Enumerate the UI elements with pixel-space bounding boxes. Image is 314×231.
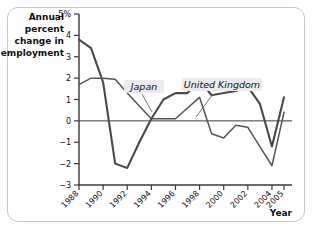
x-tick-label-5: 1998 <box>180 189 201 210</box>
y-tick-label-0: 5% <box>58 10 71 19</box>
y-axis-title-line-4: employment <box>1 48 65 58</box>
y-axis-title: Annual percent change in employment <box>1 12 65 58</box>
x-tick-label-2: 1992 <box>108 189 129 210</box>
y-tick-label-5: 0 <box>66 117 71 126</box>
x-axis-title: Year <box>269 208 293 218</box>
x-tick-label-7: 2002 <box>228 189 249 210</box>
x-tick-label-4: 1996 <box>156 189 177 210</box>
y-tick-label-6: −1 <box>59 138 71 147</box>
y-tick-label-2: 3 <box>66 53 71 62</box>
x-tick-label-0: 1988 <box>60 189 81 210</box>
y-tick-label-7: −2 <box>59 160 71 169</box>
y-tick-label-8: −3 <box>59 181 71 190</box>
y-tick-label-3: 2 <box>66 74 71 83</box>
employment-change-line-chart: Annual percent change in employment 5%43… <box>0 0 314 231</box>
chart-container: Annual percent change in employment 5%43… <box>0 0 314 231</box>
x-tick-label-1: 1990 <box>84 189 105 210</box>
x-axis-ticks: 1988199019921994199619982000200220042005 <box>60 185 286 210</box>
x-tick-label-6: 2000 <box>204 189 225 210</box>
series-label-united-kingdom: United Kingdom <box>184 79 260 90</box>
y-axis-title-line-2: percent <box>25 24 65 34</box>
y-tick-label-4: 1 <box>66 96 71 105</box>
y-tick-label-1: 4 <box>66 31 71 40</box>
series-line-united-kingdom <box>79 40 284 168</box>
x-tick-label-3: 1994 <box>132 189 153 210</box>
series-label-japan: Japan <box>129 81 158 92</box>
y-axis-title-line-3: change in <box>15 36 64 46</box>
